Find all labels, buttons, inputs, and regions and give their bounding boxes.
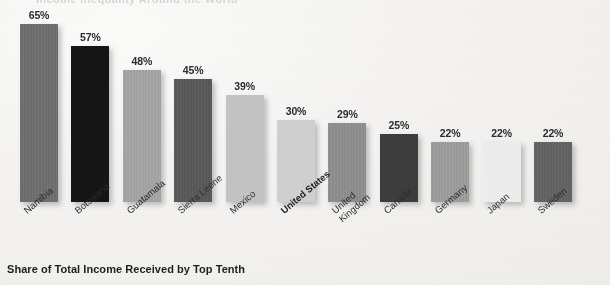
bar-group: 22% xyxy=(483,2,521,202)
bar-value-label: 57% xyxy=(63,31,117,43)
category-axis-labels: NamibiaBotswanaGuatamalaSierra LeoneMexi… xyxy=(0,202,610,258)
bar-group: 29% xyxy=(328,2,366,202)
bar-plot-area: 65%57%48%45%39%30%29%25%22%22%22% xyxy=(0,0,610,202)
bar-group: 65% xyxy=(20,2,58,202)
bar-group: 39% xyxy=(226,2,264,202)
bar-value-label: 25% xyxy=(372,119,426,131)
bar-group: 45% xyxy=(174,2,212,202)
bar-value-label: 22% xyxy=(526,127,580,139)
bar-value-label: 39% xyxy=(218,80,272,92)
bar-group: 48% xyxy=(123,2,161,202)
bar-value-label: 29% xyxy=(320,108,374,120)
bar-value-label: 22% xyxy=(475,127,529,139)
bar-group: 22% xyxy=(431,2,469,202)
bar xyxy=(226,95,264,202)
chart-caption: Share of Total Income Received by Top Te… xyxy=(7,263,245,275)
chart-page: Income Inequality Around the World 65%57… xyxy=(0,0,610,285)
bar-value-label: 45% xyxy=(166,64,220,76)
bar xyxy=(20,24,58,202)
bar xyxy=(71,46,109,202)
bar-value-label: 65% xyxy=(12,9,66,21)
bar-value-label: 30% xyxy=(269,105,323,117)
bar-group: 22% xyxy=(534,2,572,202)
bar-group: 25% xyxy=(380,2,418,202)
bar-group: 57% xyxy=(71,2,109,202)
bar-value-label: 22% xyxy=(423,127,477,139)
bar-value-label: 48% xyxy=(115,55,169,67)
bar-group: 30% xyxy=(277,2,315,202)
